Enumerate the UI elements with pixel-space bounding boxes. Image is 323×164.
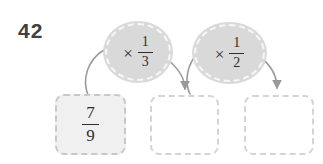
multiply-symbol: × [123, 44, 133, 64]
operation-bubble-2-border: × 1 2 [194, 24, 265, 82]
fraction-numerator: 1 [229, 35, 244, 53]
operation-2-fraction: 1 2 [229, 35, 244, 70]
operation-bubble-1: × 1 3 [103, 21, 173, 83]
worksheet-exercise: 42 × 1 3 × 1 2 7 [0, 0, 323, 164]
fraction-numerator: 7 [82, 103, 99, 125]
operation-bubble-2: × 1 2 [192, 22, 267, 84]
start-value-box: 7 9 [55, 94, 126, 155]
operation-bubble-1-border: × 1 3 [105, 23, 171, 81]
multiply-symbol: × [215, 45, 225, 65]
fraction-numerator: 1 [138, 34, 153, 52]
answer-box-2[interactable] [244, 95, 314, 155]
fraction-denominator: 3 [142, 53, 149, 70]
answer-box-1[interactable] [150, 95, 219, 155]
start-value-fraction: 7 9 [82, 103, 99, 145]
arrow-start-to-bubble1 [86, 50, 104, 95]
operation-1-fraction: 1 3 [138, 34, 153, 69]
fraction-denominator: 2 [233, 54, 240, 71]
fraction-denominator: 9 [86, 125, 95, 146]
